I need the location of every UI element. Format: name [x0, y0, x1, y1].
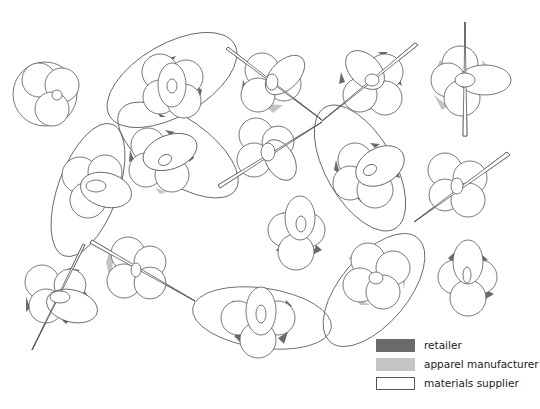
cluster-plain-right	[438, 240, 497, 316]
cluster-enclosed-center-left	[129, 126, 202, 194]
cluster-enclosed-top	[142, 54, 203, 118]
legend-item-retailer: retailer	[376, 336, 540, 354]
cluster-spindle-right	[414, 152, 510, 222]
legend-item-materials-supplier: materials supplier	[376, 374, 540, 392]
cluster-spindle-top-right	[322, 43, 418, 121]
cluster-trefoil	[13, 62, 79, 126]
apparel-manufacturer-swatch	[376, 358, 415, 371]
cluster-spindle-bottom-left	[25, 244, 101, 350]
cluster-spindle-left-bottom	[90, 237, 195, 301]
legend-label: retailer	[424, 339, 462, 351]
cluster-spindle-vertical	[431, 22, 511, 136]
cluster-spindle-center	[218, 118, 322, 188]
retailer-swatch	[376, 339, 415, 352]
cluster-enclosed-bottom	[221, 287, 295, 358]
legend: retailer apparel manufacturer materials …	[376, 336, 540, 393]
legend-label: materials supplier	[424, 377, 519, 389]
materials-supplier-swatch	[376, 377, 415, 390]
cluster-plain-center	[268, 196, 325, 270]
legend-label: apparel manufacturer	[424, 358, 539, 370]
cluster-enclosed-bottom-right	[343, 243, 410, 309]
legend-item-apparel-manufacturer: apparel manufacturer	[376, 355, 540, 373]
cluster-spindle-top-center	[226, 47, 322, 120]
cluster-enclosed-right-center	[333, 137, 412, 208]
